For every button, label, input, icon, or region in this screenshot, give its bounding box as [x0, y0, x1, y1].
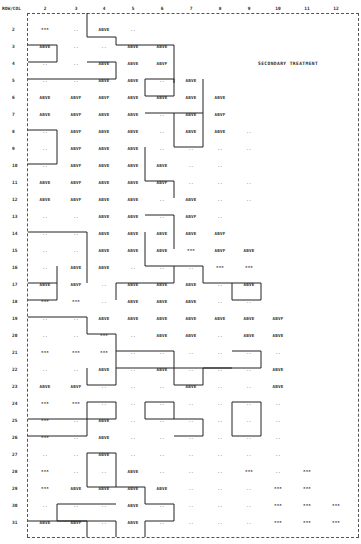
region-boundaries	[0, 0, 361, 544]
printout-page: ROW/COL 23456789101112 SECONDARY TREATME…	[0, 0, 361, 544]
